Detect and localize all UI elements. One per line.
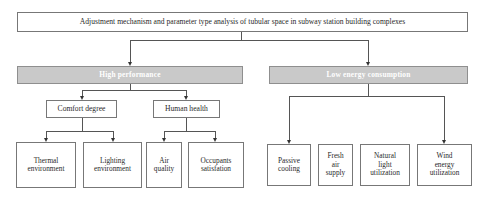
connector: [289, 96, 445, 97]
leaf-label-line: cooling: [278, 165, 300, 173]
leaf-thermal-environment: Thermal environment: [16, 142, 76, 188]
connector: [368, 84, 369, 96]
leaf-fresh-air-supply: Fresh air supply: [318, 144, 353, 186]
connector-root-horizontal: [130, 40, 369, 41]
leaf-wind-energy-utilization: Wind energy utilization: [417, 144, 472, 186]
root-title-text: Adjustment mechanism and parameter type …: [80, 18, 405, 27]
connector: [289, 96, 290, 140]
connector: [46, 131, 47, 138]
connector: [164, 131, 216, 132]
subgroup-label: Comfort degree: [58, 105, 106, 114]
connector-root-vertical: [241, 32, 242, 40]
leaf-natural-light-utilization: Natural light utilization: [360, 144, 410, 186]
connector: [186, 118, 187, 131]
category-low-energy-consumption: Low energy consumption: [269, 66, 468, 84]
connector: [82, 118, 83, 131]
leaf-label-line: supply: [326, 169, 345, 177]
root-title-box: Adjustment mechanism and parameter type …: [17, 12, 468, 32]
category-label: Low energy consumption: [326, 71, 410, 80]
leaf-air-quality: Air quality: [146, 142, 182, 188]
connector: [444, 96, 445, 140]
leaf-label-line: environment: [28, 165, 65, 173]
leaf-label-line: environment: [94, 165, 131, 173]
connector-to-low-energy: [368, 40, 369, 62]
connector: [164, 131, 165, 138]
leaf-label-line: utilization: [370, 169, 400, 177]
category-label: High performance: [99, 71, 160, 80]
leaf-label-line: utilization: [430, 169, 460, 177]
leaf-lighting-environment: Lighting environment: [83, 142, 142, 188]
subgroup-comfort-degree: Comfort degree: [46, 100, 117, 118]
subgroup-label: Human health: [165, 105, 208, 114]
leaf-label-line: satisfation: [201, 165, 231, 173]
leaf-label-line: quality: [154, 165, 174, 173]
connector: [82, 90, 187, 91]
connector: [215, 131, 216, 138]
leaf-occupants-satisfation: Occupants satisfation: [188, 142, 244, 188]
category-high-performance: High performance: [17, 66, 243, 84]
connector: [46, 131, 114, 132]
subgroup-human-health: Human health: [153, 100, 220, 118]
connector-to-high-performance: [130, 40, 131, 62]
leaf-passive-cooling: Passive cooling: [267, 144, 311, 186]
connector: [113, 131, 114, 138]
